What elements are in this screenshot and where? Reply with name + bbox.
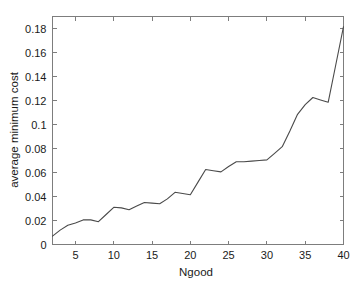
y-tick-label: 0.08 — [25, 143, 46, 155]
y-axis-title: average minimum cost — [8, 71, 20, 187]
tick-marks — [53, 17, 344, 245]
x-tick-label: 35 — [299, 249, 311, 261]
y-tick-label: 0.16 — [25, 47, 46, 59]
y-tick-label: 0.12 — [25, 95, 46, 107]
y-tick-label: 0 — [40, 239, 46, 251]
x-tick-label: 25 — [223, 249, 235, 261]
x-tick-label: 10 — [108, 249, 120, 261]
x-tick-labels: 510152025303540 — [72, 249, 349, 261]
x-tick-label: 15 — [146, 249, 158, 261]
x-axis-title: Ngood — [179, 266, 213, 278]
y-tick-label: 0.1 — [31, 119, 46, 131]
y-tick-label: 0.18 — [25, 23, 46, 35]
data-series — [53, 27, 344, 236]
y-tick-label: 0.04 — [25, 191, 46, 203]
x-tick-label: 20 — [184, 249, 196, 261]
x-tick-label: 5 — [72, 249, 78, 261]
y-tick-label: 0.14 — [25, 71, 46, 83]
figure-container: 510152025303540 00.020.040.060.080.10.12… — [0, 0, 361, 291]
line-chart: 510152025303540 00.020.040.060.080.10.12… — [0, 0, 361, 291]
y-tick-label: 0.06 — [25, 167, 46, 179]
axes — [53, 17, 344, 245]
data-line — [53, 27, 344, 236]
y-tick-labels: 00.020.040.060.080.10.120.140.160.18 — [25, 23, 46, 251]
y-tick-label: 0.02 — [25, 215, 46, 227]
x-tick-label: 30 — [261, 249, 273, 261]
x-tick-label: 40 — [337, 249, 349, 261]
axes-box — [53, 17, 344, 245]
